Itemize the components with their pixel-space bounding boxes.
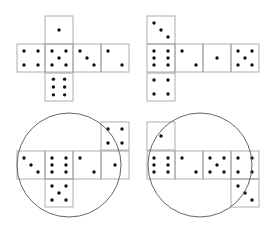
pip bbox=[106, 141, 109, 144]
pip bbox=[57, 191, 60, 194]
pip bbox=[166, 63, 169, 66]
pip bbox=[236, 170, 239, 173]
pip bbox=[152, 156, 155, 159]
pip bbox=[50, 156, 53, 159]
pip bbox=[152, 92, 155, 95]
pip bbox=[52, 85, 55, 88]
pip bbox=[166, 92, 169, 95]
pip bbox=[50, 170, 53, 173]
dice-net-diagram bbox=[0, 0, 272, 229]
die-face-5 bbox=[203, 151, 231, 179]
pip bbox=[57, 56, 60, 59]
pip bbox=[250, 198, 253, 201]
die-face-6 bbox=[45, 73, 73, 101]
pip bbox=[113, 163, 116, 166]
pip bbox=[63, 77, 66, 80]
pip bbox=[152, 170, 155, 173]
pip bbox=[120, 141, 123, 144]
pip bbox=[166, 56, 169, 59]
face-outline bbox=[175, 151, 203, 179]
die-face-1 bbox=[45, 16, 73, 44]
pip bbox=[120, 63, 123, 66]
pip bbox=[92, 63, 95, 66]
pip bbox=[236, 156, 239, 159]
pip bbox=[85, 56, 88, 59]
die-face-3 bbox=[147, 16, 175, 44]
pip bbox=[236, 49, 239, 52]
pip bbox=[64, 63, 67, 66]
pip bbox=[92, 170, 95, 173]
pip bbox=[208, 156, 211, 159]
die-face-3 bbox=[17, 151, 45, 179]
pip bbox=[166, 156, 169, 159]
pip bbox=[166, 35, 169, 38]
pip bbox=[166, 49, 169, 52]
pip bbox=[120, 127, 123, 130]
pip bbox=[64, 163, 67, 166]
pip bbox=[250, 49, 253, 52]
pip bbox=[52, 93, 55, 96]
pip bbox=[159, 28, 162, 31]
pip bbox=[166, 78, 169, 81]
pip bbox=[64, 156, 67, 159]
pip bbox=[215, 163, 218, 166]
face-outline bbox=[231, 151, 259, 179]
face-outline bbox=[101, 122, 129, 150]
pip bbox=[52, 77, 55, 80]
pip bbox=[36, 63, 39, 66]
die-face-2 bbox=[175, 151, 203, 179]
net-t-shape bbox=[147, 16, 259, 101]
die-face-6 bbox=[45, 151, 73, 179]
die-face-4 bbox=[101, 122, 129, 150]
pip bbox=[22, 49, 25, 52]
pip bbox=[194, 170, 197, 173]
pip bbox=[222, 156, 225, 159]
pip bbox=[50, 63, 53, 66]
pip bbox=[78, 156, 81, 159]
die-face-1 bbox=[203, 44, 231, 72]
pip bbox=[222, 170, 225, 173]
pip bbox=[152, 163, 155, 166]
die-face-4 bbox=[17, 44, 45, 72]
face-outline bbox=[147, 73, 175, 101]
face-outline bbox=[147, 151, 175, 179]
pip bbox=[50, 163, 53, 166]
face-outline bbox=[175, 44, 203, 72]
pip bbox=[236, 63, 239, 66]
pip bbox=[152, 56, 155, 59]
pip bbox=[152, 78, 155, 81]
pip bbox=[250, 63, 253, 66]
face-outline bbox=[147, 44, 175, 72]
pip bbox=[50, 198, 53, 201]
pip bbox=[180, 49, 183, 52]
pip bbox=[22, 156, 25, 159]
pip bbox=[63, 85, 66, 88]
pip bbox=[152, 63, 155, 66]
pip bbox=[64, 184, 67, 187]
pip bbox=[152, 21, 155, 24]
die-face-1 bbox=[101, 151, 129, 179]
pip bbox=[180, 156, 183, 159]
pip bbox=[152, 49, 155, 52]
die-face-2 bbox=[73, 151, 101, 179]
pip bbox=[50, 49, 53, 52]
face-outline bbox=[45, 151, 73, 179]
die-face-5 bbox=[231, 44, 259, 72]
die-face-6 bbox=[147, 44, 175, 72]
die-face-3 bbox=[73, 44, 101, 72]
die-face-6 bbox=[147, 151, 175, 179]
pip bbox=[64, 49, 67, 52]
face-outline bbox=[17, 44, 45, 72]
face-outline bbox=[45, 73, 73, 101]
pip bbox=[236, 184, 239, 187]
die-face-5 bbox=[45, 44, 73, 72]
die-face-2 bbox=[175, 44, 203, 72]
die-face-5 bbox=[45, 179, 73, 207]
net-circled-left bbox=[17, 113, 129, 217]
die-face-2 bbox=[101, 44, 129, 72]
pip bbox=[166, 170, 169, 173]
enclosing-circle bbox=[148, 113, 252, 217]
pip bbox=[208, 170, 211, 173]
pip bbox=[64, 170, 67, 173]
pip bbox=[64, 198, 67, 201]
